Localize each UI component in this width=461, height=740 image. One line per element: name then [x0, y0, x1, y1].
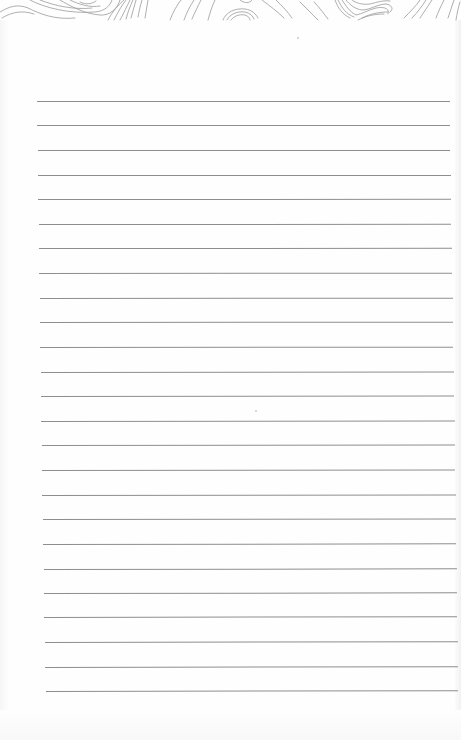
- ruled-line: [38, 175, 451, 176]
- ruled-line: [44, 568, 457, 570]
- ruled-line: [38, 150, 450, 151]
- ruled-line: [44, 616, 457, 618]
- ruled-line: [42, 444, 455, 446]
- ruled-line: [41, 396, 454, 397]
- ruled-line: [37, 125, 450, 126]
- ruled-line: [45, 666, 458, 668]
- ruled-line: [39, 248, 452, 249]
- ruled-line: [39, 273, 452, 274]
- ruled-line: [38, 199, 451, 200]
- ruled-line: [41, 372, 454, 373]
- ruled-line: [40, 322, 453, 323]
- ruled-line: [44, 592, 457, 594]
- paper-speck: [297, 37, 299, 39]
- ruled-line: [41, 421, 455, 422]
- ruled-line: [42, 469, 455, 471]
- paper-speck: [255, 410, 257, 412]
- ruled-line: [37, 101, 450, 102]
- ruled-line: [42, 494, 456, 496]
- ruled-line: [46, 690, 458, 692]
- ruled-line: [43, 518, 456, 520]
- ruled-line: [40, 298, 453, 299]
- ruled-line: [43, 543, 456, 545]
- ruled-line: [45, 641, 458, 643]
- ruled-line: [40, 347, 453, 348]
- ruled-lines: [0, 0, 461, 740]
- notebook-page: [0, 0, 461, 740]
- ruled-line: [39, 224, 451, 225]
